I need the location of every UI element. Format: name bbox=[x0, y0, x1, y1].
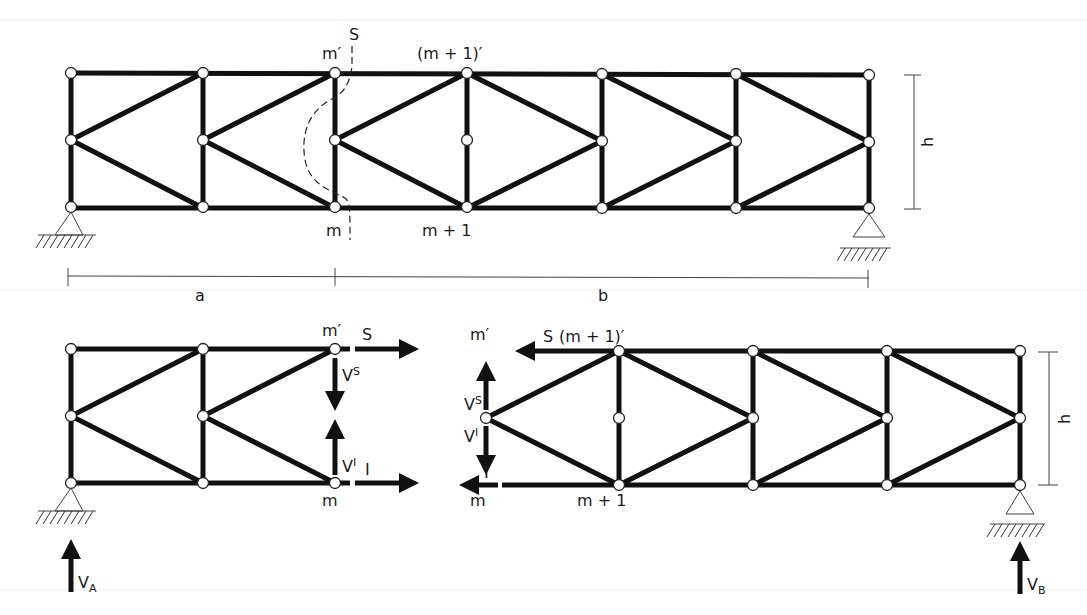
roller-support-b bbox=[987, 491, 1045, 537]
reaction-label-vb: VB bbox=[1027, 575, 1046, 597]
left-label-vs: VS bbox=[342, 365, 360, 385]
right-label-i: I bbox=[484, 463, 489, 482]
cut-label-s: S bbox=[349, 25, 359, 44]
node-label-m1: m + 1 bbox=[422, 221, 471, 240]
right-label-vs: VS bbox=[464, 394, 482, 414]
left-label-m-prime: m′ bbox=[322, 321, 342, 340]
left-label-i: I bbox=[365, 460, 370, 479]
node-label-m1-prime: (m + 1)′ bbox=[417, 44, 483, 63]
full-truss: a b h m′ (m + 1)′ S m m + 1 bbox=[36, 25, 937, 305]
span-dimension bbox=[68, 268, 869, 288]
dim-b-label: b bbox=[598, 286, 608, 305]
left-free-body: m′ m S I VS VI VA bbox=[36, 321, 410, 595]
right-label-s: S bbox=[543, 327, 553, 346]
right-free-body: h m′ S (m + 1)′ m I m + 1 VS VI VB bbox=[464, 325, 1074, 597]
right-label-vi: VI bbox=[464, 426, 478, 446]
dim-a-label: a bbox=[195, 286, 205, 305]
roller-support-right bbox=[837, 214, 891, 261]
right-height-label: h bbox=[1055, 414, 1074, 424]
right-label-m1: m + 1 bbox=[577, 491, 626, 510]
node-label-m: m bbox=[326, 221, 342, 240]
left-label-m: m bbox=[322, 491, 338, 510]
truss-nodes bbox=[66, 68, 875, 214]
left-label-s: S bbox=[362, 325, 372, 344]
truss-diagram: a b h m′ (m + 1)′ S m m + 1 bbox=[0, 0, 1087, 615]
height-label: h bbox=[918, 137, 937, 147]
background-grid bbox=[0, 20, 1087, 590]
node-label-m-prime: m′ bbox=[322, 44, 342, 63]
pin-support-a bbox=[36, 488, 96, 524]
reaction-label-va: VA bbox=[78, 573, 97, 595]
left-label-vi: VI bbox=[342, 456, 356, 476]
pin-support-left bbox=[36, 212, 96, 248]
right-label-m1-prime: (m + 1)′ bbox=[559, 327, 625, 346]
right-label-m-prime: m′ bbox=[470, 325, 490, 344]
right-label-m: m bbox=[470, 491, 486, 510]
